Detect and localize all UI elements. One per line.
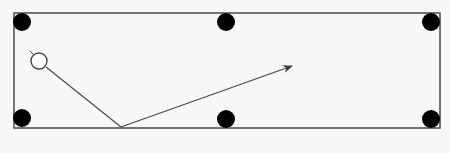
pocket-bottom-middle bbox=[217, 110, 235, 128]
pocket-bottom-left bbox=[13, 109, 31, 127]
ball-tick-mark bbox=[30, 51, 34, 55]
ball-path-incoming bbox=[46, 67, 121, 127]
cue-ball bbox=[31, 53, 47, 69]
pocket-top-middle bbox=[217, 13, 235, 31]
ball-path-reflected-arrow bbox=[121, 66, 292, 127]
pocket-top-right bbox=[422, 13, 440, 31]
pocket-bottom-right bbox=[422, 110, 440, 128]
billiard-diagram bbox=[0, 0, 450, 153]
pocket-top-left bbox=[13, 13, 31, 31]
pockets-group bbox=[13, 13, 440, 128]
